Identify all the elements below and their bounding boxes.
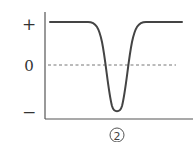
y-tick-zero: 0 [24,57,34,75]
data-curve [50,22,182,111]
caption-number: 2 [114,130,121,143]
chart: + 0 − 2 [0,0,195,142]
y-tick-plus: + [22,14,36,34]
y-tick-minus: − [22,102,36,122]
figure-caption: 2 [110,128,124,142]
